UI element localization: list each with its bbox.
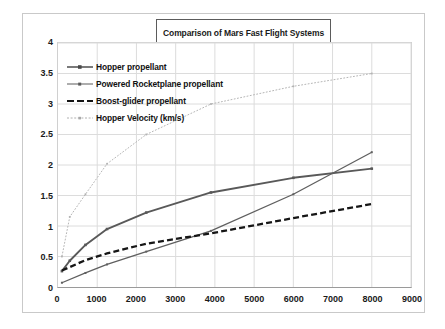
x-axis-tick-labels: 0100020003000400050006000700080009000 — [57, 294, 412, 308]
legend-swatch-solid-marker-icon — [67, 61, 93, 73]
y-axis-tick-label: 3 — [48, 99, 53, 109]
chart-frame: Comparison of Mars Fast Flight Systems 0… — [22, 13, 425, 313]
data-point-marker — [84, 272, 86, 274]
x-axis-tick-label: 1000 — [86, 294, 106, 304]
x-axis-tick-label: 7000 — [323, 294, 343, 304]
chart-title-box: Comparison of Mars Fast Flight Systems — [156, 19, 331, 44]
series-line — [62, 152, 372, 283]
data-point-marker — [210, 191, 213, 194]
legend-item-powered-rocketplane-propellant: Powered Rocketplane propellant — [67, 75, 282, 92]
data-point-marker — [106, 163, 108, 165]
y-axis-tick-label: 0 — [48, 283, 53, 293]
data-point-marker — [371, 73, 373, 75]
data-point-marker — [145, 251, 147, 253]
page-title: Comparison of Mars Fast Flight Systems — [163, 28, 324, 38]
x-axis-tick-label: 6000 — [284, 294, 304, 304]
legend-label: Powered Rocketplane propellant — [96, 79, 223, 89]
y-axis-tick-label: 3.5 — [40, 68, 53, 78]
data-point-marker — [145, 134, 147, 136]
x-axis-tick-label: 2000 — [126, 294, 146, 304]
data-point-marker — [106, 228, 109, 231]
y-axis-tick-label: 2 — [48, 160, 53, 170]
data-point-marker — [84, 244, 87, 247]
data-point-marker — [85, 193, 87, 195]
data-point-marker — [210, 230, 212, 232]
legend-label: Hopper Velocity (km/s) — [96, 113, 184, 123]
x-axis-tick-label: 5000 — [244, 294, 264, 304]
chart-figure: Comparison of Mars Fast Flight Systems 0… — [0, 0, 445, 329]
legend-item-hopper-velocity: Hopper Velocity (km/s) — [67, 109, 282, 126]
x-axis-tick-label: 9000 — [402, 294, 422, 304]
legend-item-boost-glider-propellant: Boost-glider propellant — [67, 92, 282, 109]
data-point-marker — [370, 167, 373, 170]
chart-legend: Hopper propellant Powered Rocketplane pr… — [67, 58, 282, 126]
y-axis-tick-label: 0.5 — [40, 252, 53, 262]
legend-label: Hopper propellant — [96, 62, 166, 72]
legend-swatch-dotted-light-icon — [67, 112, 93, 124]
y-axis-tick-label: 2.5 — [40, 129, 53, 139]
data-point-marker — [68, 259, 71, 262]
data-point-marker — [61, 282, 63, 284]
y-axis-tick-label: 4 — [48, 37, 53, 47]
legend-swatch-dashed-icon — [67, 95, 93, 107]
y-axis-tick-labels: 00.511.522.533.54 — [23, 42, 53, 288]
x-axis-tick-label: 3000 — [165, 294, 185, 304]
data-point-marker — [106, 263, 108, 265]
series-line — [62, 204, 372, 270]
x-axis-tick-label: 4000 — [205, 294, 225, 304]
data-point-marker — [292, 177, 295, 180]
legend-item-hopper-propellant: Hopper propellant — [67, 58, 282, 75]
y-axis-tick-label: 1 — [48, 222, 53, 232]
data-point-marker — [61, 256, 63, 258]
legend-swatch-solid-thin-icon — [67, 78, 93, 90]
data-point-marker — [69, 216, 71, 218]
series-line — [62, 169, 372, 271]
y-axis-tick-label: 1.5 — [40, 191, 53, 201]
legend-label: Boost-glider propellant — [96, 96, 186, 106]
x-axis-tick-label: 0 — [54, 294, 59, 304]
data-point-marker — [292, 85, 294, 87]
data-point-marker — [292, 193, 294, 195]
x-axis-tick-label: 8000 — [363, 294, 383, 304]
data-point-marker — [145, 211, 148, 214]
data-point-marker — [371, 151, 373, 153]
